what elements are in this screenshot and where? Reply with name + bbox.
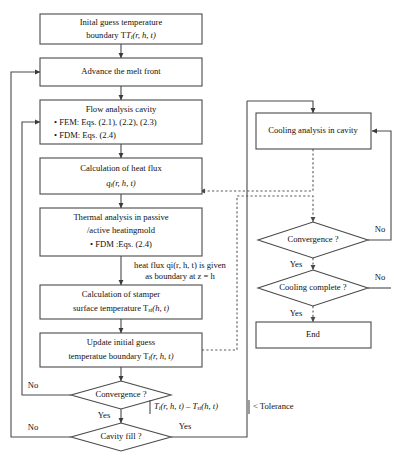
label-convergence-left-yes: Yes [98, 410, 111, 420]
label-convergence-left-no: No [28, 380, 39, 390]
label-cooling-complete-no: No [375, 272, 386, 282]
stamper-line2-post: (h, t) [152, 303, 169, 313]
end-label: End [306, 329, 321, 339]
flow-analysis-line1: Flow analysis cavity [86, 104, 157, 114]
stamper-line2-pre: surface temperature T [73, 303, 149, 313]
thermal-line1: Thermal analysis in passive [73, 212, 168, 222]
edge-cooling-entry-arrow [247, 101, 313, 113]
stamper-line2: surface temperature Tst(h, t) [73, 303, 169, 313]
edge-cooling-to-heatflux-dashed [200, 149, 313, 191]
initial-guess-line1: Inital guess temperature [80, 17, 163, 27]
cooling-complete-label: Cooling complete ? [279, 282, 346, 292]
label-cavity-fill-yes: Yes [179, 421, 192, 431]
label-cavity-fill-no: No [28, 422, 39, 432]
flowchart-svg: Inital guess temperature boundary TTi(r,… [0, 0, 404, 458]
tolerance-post: (h, t) [201, 401, 218, 411]
initial-guess-line2-post: (r, h, t) [132, 30, 156, 40]
cooling-analysis-label: Cooling analysis in cavity [268, 125, 358, 135]
label-convergence-right-no: No [375, 224, 386, 234]
heat-flux-note-line1: heat flux qi(r, h, t) is given [134, 260, 226, 270]
tolerance-expression: Ti(r, h, t) – Tst(h, t) [154, 401, 218, 411]
heat-flux-note-line2: as boundary at z = h [145, 271, 215, 281]
heat-flux-line1: Calculation of heat flux [80, 163, 162, 173]
update-line2-pre: temperatue boundary T [68, 351, 149, 361]
label-cooling-complete-yes: Yes [290, 308, 303, 318]
update-line2-post: (r, h, t) [150, 351, 174, 361]
flow-analysis-line2: • FEM: Eqs. (2.1), (2.2), (2.3) [54, 117, 157, 127]
update-line1: Update initial guess [87, 337, 156, 347]
flow-analysis-line3: • FDM: Eqs. (2.4) [54, 130, 116, 140]
thermal-line3: • FDM :Eqs. (2.4) [90, 239, 152, 249]
flowchart-canvas: Inital guess temperature boundary TTi(r,… [0, 0, 404, 458]
thermal-line2: /active heatingmold [87, 225, 156, 235]
update-line2: temperatue boundary Ti(r, h, t) [68, 351, 173, 361]
tolerance-tail: < Tolerance [253, 401, 294, 411]
initial-guess-line2: boundary TTi(r, h, t) [86, 30, 156, 40]
cavity-fill-label: Cavity fill ? [100, 431, 141, 441]
label-convergence-right-yes: Yes [290, 259, 303, 269]
heat-flux-args: (r, h, t) [112, 178, 136, 188]
initial-guess-line2-pre: boundary T [86, 30, 126, 40]
advance-melt-label: Advance the melt front [81, 66, 161, 76]
convergence-right-label: Convergence ? [287, 234, 338, 244]
stamper-line1: Calculation of stamper [82, 289, 160, 299]
tolerance-mid: (r, h, t) – T [160, 401, 198, 411]
convergence-left-label: Convergence ? [95, 389, 146, 399]
